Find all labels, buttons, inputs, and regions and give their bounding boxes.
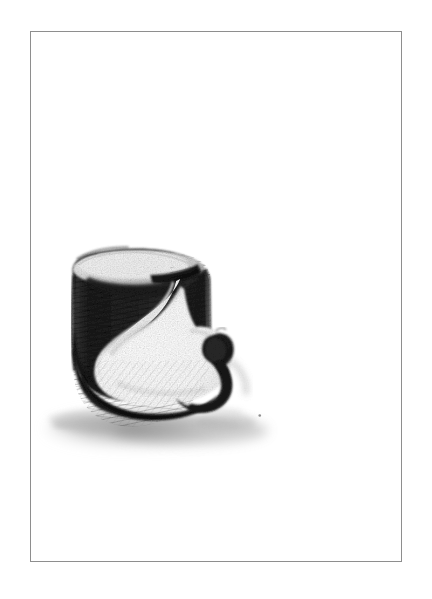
- artwork-page: Charcoal study of a carved cylindrical f…: [0, 0, 432, 599]
- plate-border: Charcoal study of a carved cylindrical f…: [30, 31, 402, 562]
- drawing-canvas: [31, 32, 401, 561]
- stray-mark: [258, 414, 261, 417]
